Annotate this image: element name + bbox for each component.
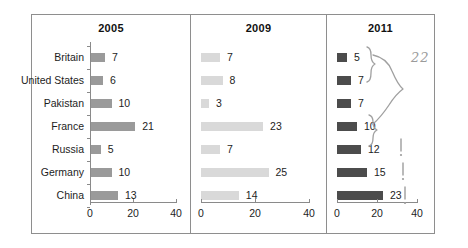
y-axis-tick	[87, 115, 90, 116]
bar-value-label: 7	[227, 144, 233, 155]
bar-value-label: 23	[270, 121, 282, 132]
bar	[90, 191, 118, 200]
bar-value-label: 7	[358, 75, 364, 86]
bar-row: 7	[337, 69, 434, 92]
plot-area: 783237251402040	[191, 46, 326, 203]
bar-row: 8	[201, 69, 326, 92]
bar	[337, 145, 361, 154]
bar-rows: Britain7United States6Pakistan10France21…	[90, 46, 190, 203]
bar	[201, 122, 263, 131]
x-axis-tick	[337, 199, 338, 203]
bar-row: 15	[337, 161, 434, 184]
x-axis-tick-label: 20	[371, 208, 383, 219]
handwritten-value-22: 22	[411, 50, 430, 65]
x-axis-tick-label: 40	[170, 208, 182, 219]
plot-area: Britain7United States6Pakistan10France21…	[32, 46, 190, 203]
bar	[201, 99, 209, 108]
chart-panel-2005: 2005 Britain7United States6Pakistan10Fra…	[32, 15, 190, 233]
y-axis-tick	[87, 46, 90, 47]
y-axis-tick	[87, 92, 90, 93]
bar-row: 10	[337, 115, 434, 138]
panel-title: 2011	[327, 22, 434, 34]
x-axis-tick	[90, 199, 91, 203]
chart-panel-2009: 2009 783237251402040	[190, 15, 326, 233]
bar-row: 3	[201, 92, 326, 115]
bar-value-label: 10	[364, 121, 376, 132]
bar-row: 7	[337, 92, 434, 115]
x-axis-tick	[255, 199, 256, 203]
bar	[201, 76, 223, 85]
plot-area: 5771012152302040	[327, 46, 434, 203]
category-label: France	[51, 121, 84, 132]
bar-value-label: 10	[119, 167, 131, 178]
bar	[201, 168, 269, 177]
x-axis-tick	[417, 199, 418, 203]
x-axis-labels: 02040	[201, 208, 309, 222]
bar-value-label: 5	[108, 144, 114, 155]
bar-value-label: 15	[374, 167, 386, 178]
bar	[90, 76, 103, 85]
category-label: Germany	[41, 167, 84, 178]
category-label: Britain	[54, 52, 84, 63]
bar-row: 12	[337, 138, 434, 161]
panel-title: 2005	[32, 22, 190, 34]
bar	[90, 122, 135, 131]
y-axis-tick	[87, 138, 90, 139]
bar-value-label: 12	[368, 144, 380, 155]
category-label: United States	[21, 75, 84, 86]
x-axis-tick-label: 20	[249, 208, 261, 219]
y-axis-tick	[87, 184, 90, 185]
chart-frame: 2005 Britain7United States6Pakistan10Fra…	[31, 14, 435, 234]
bar-row: 14	[201, 184, 326, 207]
bar-value-label: 7	[112, 52, 118, 63]
x-axis-tick-label: 0	[198, 208, 204, 219]
bar-rows: 57710121523	[337, 46, 434, 203]
x-axis-tick-label: 0	[334, 208, 340, 219]
bar	[337, 76, 351, 85]
bar-row: 23	[337, 184, 434, 207]
category-label: China	[57, 190, 84, 201]
category-label: Russia	[52, 144, 84, 155]
bar-row: 7	[201, 138, 326, 161]
y-axis-line	[90, 42, 91, 205]
bar-row: Russia5	[90, 138, 190, 161]
bar-row: 25	[201, 161, 326, 184]
bar-row: United States6	[90, 69, 190, 92]
x-axis-tick-label: 20	[127, 208, 139, 219]
bar	[201, 53, 220, 62]
bar-row: 7	[201, 46, 326, 69]
bar	[337, 168, 367, 177]
bar	[90, 99, 112, 108]
y-axis-tick	[87, 69, 90, 70]
bar	[337, 122, 357, 131]
bar-row: 23	[201, 115, 326, 138]
category-label: Pakistan	[44, 98, 84, 109]
x-axis-labels: 02040	[337, 208, 417, 222]
bar-value-label: 8	[230, 75, 236, 86]
x-axis-tick	[176, 199, 177, 203]
bar-value-label: 6	[110, 75, 116, 86]
x-axis-tick	[309, 199, 310, 203]
bar	[90, 168, 112, 177]
bar-value-label: 3	[216, 98, 222, 109]
bar-value-label: 13	[125, 190, 137, 201]
panel-title: 2009	[191, 22, 326, 34]
bar	[90, 145, 101, 154]
bar-value-label: 25	[276, 167, 288, 178]
bar-row: Pakistan10	[90, 92, 190, 115]
bar	[90, 53, 105, 62]
x-axis-tick-label: 40	[411, 208, 423, 219]
bar-value-label: 23	[390, 190, 402, 201]
chart-panel-2011: 2011 5771012152302040	[326, 15, 434, 233]
x-axis-tick	[133, 199, 134, 203]
bar-value-label: 21	[142, 121, 154, 132]
x-axis-tick	[377, 199, 378, 203]
x-axis-tick-label: 0	[87, 208, 93, 219]
bar-row: China13	[90, 184, 190, 207]
bar-row: Germany10	[90, 161, 190, 184]
bar-row: Britain7	[90, 46, 190, 69]
bar-value-label: 5	[354, 52, 360, 63]
x-axis-tick	[201, 199, 202, 203]
bar-value-label: 7	[227, 52, 233, 63]
bar	[201, 145, 220, 154]
